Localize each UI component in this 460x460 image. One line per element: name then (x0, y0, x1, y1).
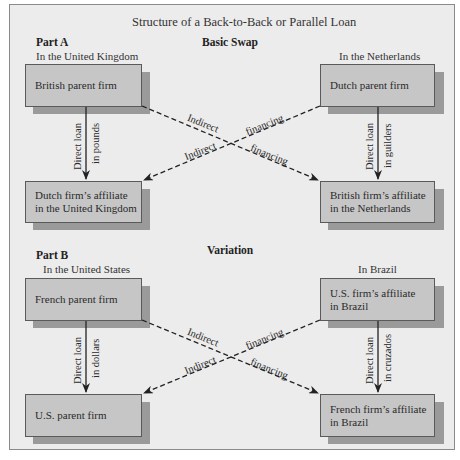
direct-loan-label: Direct loan (364, 123, 375, 170)
indirect-financing-arrow (142, 320, 318, 393)
direct-loan-currency-label: in guilders (382, 123, 393, 168)
indirect-financing-arrow (144, 106, 320, 180)
indirect-financing-arrow (142, 106, 318, 180)
direct-loan-label: Direct loan (72, 337, 83, 384)
direct-loan-label: Direct loan (72, 123, 83, 170)
arrows-layer (0, 0, 460, 460)
direct-loan-currency-label: in cruzados (382, 334, 393, 382)
direct-loan-currency-label: in pounds (90, 123, 101, 164)
indirect-financing-arrow (144, 320, 320, 393)
direct-loan-currency-label: in dollars (90, 339, 101, 378)
direct-loan-label: Direct loan (364, 337, 375, 384)
